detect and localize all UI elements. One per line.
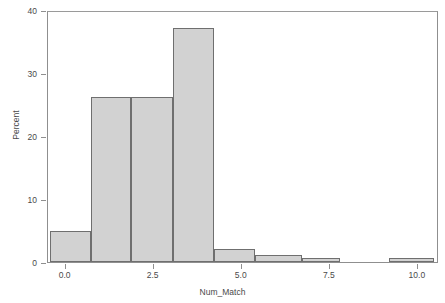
y-tick-mark [41, 263, 46, 264]
x-axis-label: Num_Match [0, 287, 445, 297]
x-tick-mark [329, 264, 330, 269]
x-tick-label: 5.0 [221, 271, 261, 280]
x-tick-mark [153, 264, 154, 269]
x-tick-label: 2.5 [133, 271, 173, 280]
x-tick-label: 0.0 [45, 271, 85, 280]
histogram-bar [214, 249, 255, 262]
y-tick-label: 40 [0, 7, 37, 16]
y-tick-label: 30 [0, 70, 37, 79]
histogram-bar [91, 97, 132, 262]
x-tick-label: 10.0 [397, 271, 437, 280]
y-axis-label: Percent [11, 95, 21, 155]
x-tick-mark [241, 264, 242, 269]
histogram-bar [173, 28, 214, 262]
y-tick-mark [41, 11, 46, 12]
y-tick-mark [41, 137, 46, 138]
histogram-bar [50, 231, 91, 262]
x-tick-mark [65, 264, 66, 269]
y-tick-label: 10 [0, 196, 37, 205]
x-tick-mark [417, 264, 418, 269]
y-tick-label: 0 [0, 259, 37, 268]
histogram-chart: Percent 010203040 0.02.55.07.510.0 Num_M… [0, 0, 445, 303]
histogram-bar [302, 258, 340, 262]
y-tick-label: 20 [0, 133, 37, 142]
histogram-bar [255, 255, 302, 262]
y-tick-mark [41, 200, 46, 201]
y-tick-mark [41, 74, 46, 75]
histogram-bar [389, 258, 434, 262]
chart-title [0, 0, 445, 5]
histogram-bar [131, 97, 172, 262]
x-tick-label: 7.5 [309, 271, 349, 280]
plot-area [47, 11, 438, 263]
